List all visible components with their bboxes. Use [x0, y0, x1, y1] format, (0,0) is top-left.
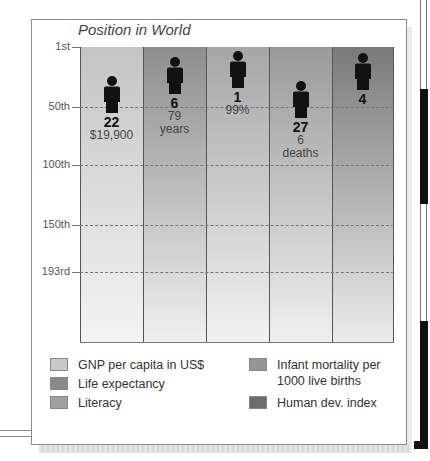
marker-infant-mortality: 27 6 deaths — [269, 81, 332, 160]
frame-shadow — [407, 27, 412, 447]
decorative-side-bar-segment — [420, 89, 428, 204]
marker-life-expectancy: 6 79 years — [143, 57, 206, 136]
person-icon — [102, 76, 122, 113]
legend-label: GNP per capita in US$ — [78, 357, 204, 373]
legend-item-life-expectancy: Life expectancy — [50, 376, 165, 392]
rank-value: 1 — [206, 90, 269, 104]
person-icon — [353, 53, 373, 90]
legend-swatch — [50, 396, 68, 409]
rank-value: 6 — [143, 96, 206, 110]
marker-literacy: 1 99% — [206, 51, 269, 117]
metric-value: $19,900 — [80, 129, 143, 142]
marker-gnp: 22 $19,900 — [80, 76, 143, 142]
legend-swatch — [50, 377, 68, 390]
decorative-side-bar-segment — [420, 321, 428, 448]
tick-label-150th: 150th — [34, 218, 70, 230]
metric-unit: deaths — [269, 147, 332, 160]
metric-value: 99% — [206, 104, 269, 117]
tick-label-193rd: 193rd — [34, 265, 70, 277]
tick-mark — [72, 272, 80, 273]
legend-item-literacy: Literacy — [50, 395, 122, 411]
rank-value: 27 — [269, 120, 332, 134]
legend-label-line2: 1000 live births — [277, 374, 361, 388]
decorative-side-bar-foot — [414, 441, 428, 449]
chart-title: Position in World — [78, 21, 191, 38]
legend-label: Literacy — [78, 395, 122, 411]
legend-label: Life expectancy — [78, 376, 165, 392]
legend-item-infant-mortality: Infant mortality per1000 live births — [249, 357, 381, 389]
legend-swatch — [249, 396, 267, 409]
gridline-150th — [80, 225, 394, 226]
decorative-rule — [0, 430, 32, 431]
legend-label-line1: Infant mortality per — [277, 358, 381, 372]
tick-mark — [72, 107, 80, 108]
person-icon — [165, 57, 185, 94]
legend-label: Infant mortality per1000 live births — [277, 357, 381, 389]
rank-value: 4 — [331, 92, 394, 106]
tick-label-100th: 100th — [34, 158, 70, 170]
rank-value: 22 — [80, 115, 143, 129]
person-icon — [291, 81, 311, 118]
legend-item-gnp: GNP per capita in US$ — [50, 357, 204, 373]
legend-swatch — [50, 358, 68, 371]
metric-unit: years — [143, 123, 206, 136]
tick-label-50th: 50th — [34, 100, 70, 112]
legend-item-human-dev-index: Human dev. index — [249, 395, 377, 411]
legend-label: Human dev. index — [277, 395, 377, 411]
frame-shadow — [39, 445, 411, 453]
decorative-rule — [0, 436, 32, 437]
gridline-100th — [80, 165, 394, 166]
gridline-193rd — [80, 272, 394, 273]
tick-mark — [72, 47, 80, 48]
tick-label-1st: 1st — [34, 40, 70, 52]
legend-swatch — [249, 358, 267, 371]
person-icon — [228, 51, 248, 88]
tick-mark — [72, 225, 80, 226]
marker-human-dev-index: 4 — [331, 53, 394, 106]
tick-mark — [72, 165, 80, 166]
